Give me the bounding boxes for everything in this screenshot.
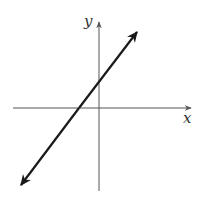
x-axis-label: x xyxy=(183,109,192,127)
plotted-line-lower xyxy=(21,108,79,185)
y-axis-label: y xyxy=(83,12,93,30)
coordinate-plane: y x xyxy=(0,0,202,200)
plotted-line xyxy=(79,32,137,108)
